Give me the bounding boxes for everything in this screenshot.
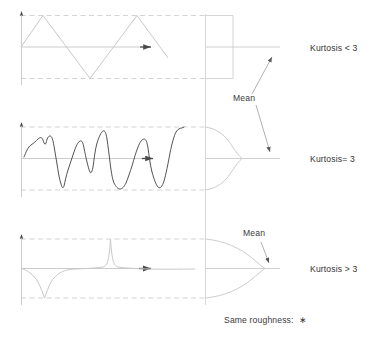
panel-leptokurtic <box>20 234 280 305</box>
mean-arrow-up <box>252 57 272 94</box>
panel-mesokurtic <box>20 122 280 197</box>
figure-canvas <box>0 0 383 337</box>
mean-arrow-down <box>256 105 270 152</box>
mean-arrow-bottom <box>261 242 269 263</box>
panel-platykurtic <box>20 11 280 85</box>
kurtosis-figure: Kurtosis < 3 Kurtosis= 3 Kurtosis > 3 Me… <box>0 0 383 337</box>
profile-random-rough <box>24 127 184 189</box>
mean-annotation-bottom <box>261 242 269 263</box>
mean-annotation-top <box>252 57 272 152</box>
